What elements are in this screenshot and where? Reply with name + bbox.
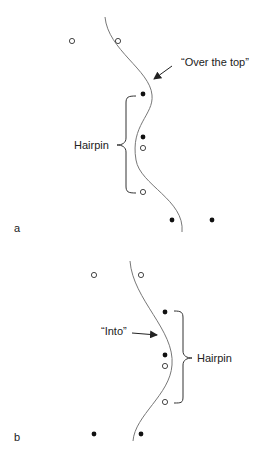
annotation-into: “Into” bbox=[101, 325, 127, 337]
filled-point bbox=[141, 135, 146, 140]
panel-a: “Over the top” Hairpin a bbox=[14, 17, 249, 234]
arrow-into bbox=[132, 333, 157, 335]
bracket-hairpin-a bbox=[117, 96, 136, 193]
open-point bbox=[69, 38, 74, 43]
filled-point bbox=[163, 310, 168, 315]
filled-point bbox=[92, 432, 97, 437]
filled-point bbox=[170, 218, 175, 223]
open-point bbox=[115, 38, 120, 43]
bracket-label-hairpin-b: Hairpin bbox=[197, 352, 232, 364]
open-point bbox=[140, 189, 145, 194]
bracket-label-hairpin-a: Hairpin bbox=[74, 139, 109, 151]
panel-label-a: a bbox=[14, 222, 21, 234]
diagram-canvas: “Over the top” Hairpin a “Into” Hairpin … bbox=[0, 0, 280, 454]
open-point bbox=[162, 363, 167, 368]
filled-point bbox=[141, 92, 146, 97]
panel-b: “Into” Hairpin b bbox=[14, 261, 232, 443]
bracket-hairpin-b bbox=[174, 311, 192, 403]
arrow-over-the-top bbox=[154, 66, 172, 79]
annotation-over-the-top: “Over the top” bbox=[181, 56, 249, 68]
open-point bbox=[91, 272, 96, 277]
panel-label-b: b bbox=[14, 431, 20, 443]
open-point bbox=[138, 272, 143, 277]
filled-point bbox=[139, 432, 144, 437]
curve-a bbox=[105, 17, 182, 232]
curve-b bbox=[130, 261, 172, 441]
filled-point bbox=[210, 218, 215, 223]
open-point bbox=[140, 145, 145, 150]
open-point bbox=[162, 399, 167, 404]
filled-point bbox=[163, 353, 168, 358]
